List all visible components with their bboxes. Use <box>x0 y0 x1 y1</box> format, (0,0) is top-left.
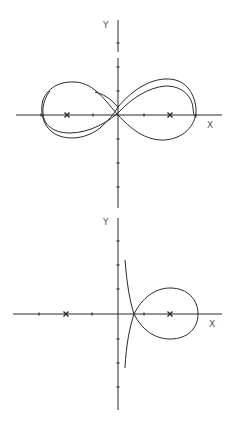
curve-inner-figure-eight <box>43 86 196 133</box>
x-axis-label-bottom: X <box>209 319 215 329</box>
y-axis-label-top: Y <box>102 20 109 30</box>
figure-canvas: Y X Y X <box>0 0 238 427</box>
curve-outer-figure-eight <box>42 79 196 140</box>
y-axis-label-bottom: Y <box>102 217 109 227</box>
figure-bottom <box>13 218 222 410</box>
x-axis-label-top: X <box>207 120 213 130</box>
figure-top <box>16 20 222 208</box>
